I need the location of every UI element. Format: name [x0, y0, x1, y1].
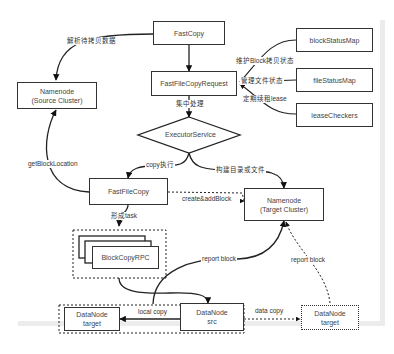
edge-label-centralized: 集中处理	[175, 100, 205, 108]
edge-label-copy-execute: copy执行	[145, 161, 175, 169]
node-label: leaseCheckers	[311, 111, 357, 120]
node-fastfilecopy: FastFileCopy	[89, 178, 168, 205]
node-fastcopy: FastCopy	[153, 21, 225, 45]
node-datanode-target-remote: DataNode target	[301, 305, 359, 330]
node-leasecheckers: leaseCheckers	[296, 103, 373, 127]
edge-label-build-dir: 构建目录或文件	[215, 166, 266, 174]
node-executorservice-label: ExecutorService	[165, 131, 216, 138]
node-label: FastFileCopy	[108, 187, 149, 196]
node-sublabel: target	[321, 318, 339, 327]
diagram-connectors	[0, 0, 394, 354]
edge-get-block-location	[46, 110, 89, 192]
node-sublabel: (Target Cluster)	[260, 205, 308, 214]
node-sublabel: target	[83, 319, 101, 328]
diagram-canvas: FastCopy Namenode (Source Cluster) FastF…	[0, 0, 394, 354]
node-label: Namenode	[267, 196, 301, 205]
node-label: blockStatusMap	[310, 36, 360, 45]
node-datanode-src: DataNode src	[180, 303, 244, 331]
node-label: DataNode	[314, 309, 346, 318]
node-label: FastFileCopyRequest	[160, 79, 227, 88]
node-filestatusmap: fileStatusMap	[296, 68, 373, 92]
node-datanode-target-local: DataNode target	[64, 307, 120, 331]
node-label: DataNode	[76, 310, 108, 319]
edge-label-report-block-2: report block	[290, 256, 326, 264]
edge-label-create-add-block: create&addBlock	[181, 195, 232, 203]
edge-label-local-copy: local copy	[137, 308, 168, 316]
node-label: DataNode	[196, 308, 228, 317]
edge-label-parse-data: 解析待拷贝数据	[66, 37, 117, 45]
edge-rpc-to-src	[119, 278, 208, 303]
node-blockcopyrpc: BlockCopyRPC	[92, 246, 159, 269]
node-label: Namenode	[40, 87, 74, 96]
node-label: fileStatusMap	[313, 76, 355, 85]
edge-label-data-copy: data copy	[254, 307, 284, 315]
node-sublabel: (Source Cluster)	[32, 96, 83, 105]
edge-label-form-task: 形成task	[110, 212, 138, 220]
node-sublabel: src	[207, 317, 216, 326]
node-blockstatusmap: blockStatusMap	[296, 28, 373, 52]
edge-label-maintain-block-status: 维护Block拷贝状态	[235, 57, 295, 65]
edge-label-get-block-location: getBlockLocation	[27, 160, 79, 168]
node-namenode-target: Namenode (Target Cluster)	[244, 188, 324, 221]
edge-label-manage-file-status: 管理文件状态	[240, 77, 284, 85]
node-label: BlockCopyRPC	[101, 253, 149, 262]
node-label: FastCopy	[174, 29, 204, 38]
node-fastfilecopyrequest: FastFileCopyRequest	[151, 71, 237, 96]
edge-label-report-block-1: report block	[201, 255, 237, 263]
edge-label-renew-lease: 定期续租lease	[242, 95, 288, 103]
node-namenode-source: Namenode (Source Cluster)	[17, 82, 97, 109]
